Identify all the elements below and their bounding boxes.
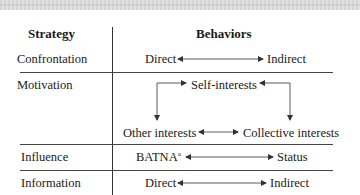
behavior-status: Status: [277, 151, 308, 164]
arrow-icon: [157, 83, 186, 120]
top-decorative-band: [0, 0, 360, 10]
behavior-collective-interests: Collective interests: [243, 127, 339, 140]
behavior-self-interests: Self-interests: [191, 79, 257, 92]
strategy-information: Information: [21, 177, 81, 190]
strategy-confrontation: Confrontation: [17, 53, 87, 66]
behavior-left: Direct: [145, 177, 176, 190]
behavior-right: Indirect: [270, 177, 309, 190]
footnote-marker: a: [178, 150, 181, 158]
behavior-left: Direct: [145, 53, 176, 66]
strategy-influence: Influence: [21, 151, 68, 164]
arrow-icon: [260, 83, 290, 120]
behavior-batna: BATNAa: [136, 151, 181, 164]
behavior-right: Indirect: [267, 53, 306, 66]
header-strategy: Strategy: [28, 27, 75, 40]
behavior-other-interests: Other interests: [123, 127, 196, 140]
row-divider: [20, 144, 333, 145]
row-divider: [20, 72, 333, 73]
row-divider: [20, 170, 333, 171]
strategy-motivation: Motivation: [17, 79, 73, 92]
batna-label: BATNA: [136, 150, 178, 164]
header-behaviors: Behaviors: [196, 27, 252, 40]
